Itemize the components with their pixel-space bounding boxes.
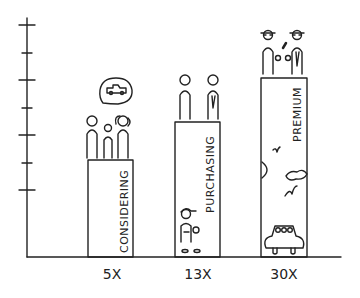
speech-bubble-car-icon xyxy=(100,78,132,104)
x-tick-30x: 30X xyxy=(270,266,297,282)
scenery-icon xyxy=(262,147,307,196)
y-axis xyxy=(19,18,35,257)
convertible-car-icon xyxy=(265,226,304,254)
premium-figures-icon xyxy=(261,31,304,75)
bar-label-considering: CONSIDERING xyxy=(118,165,131,253)
family-figures-icon xyxy=(87,116,130,158)
bar-label-purchasing: PURCHASING xyxy=(204,128,217,213)
child-figure-icon xyxy=(181,209,200,253)
x-tick-5x: 5X xyxy=(103,266,122,282)
x-tick-13x: 13X xyxy=(184,266,211,282)
buyer-figures-icon xyxy=(180,75,218,119)
bar-chart xyxy=(0,0,360,298)
bar-label-premium: PREMIUM xyxy=(291,84,304,142)
